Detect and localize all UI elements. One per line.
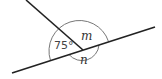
angle-label-75: 75° <box>54 39 74 52</box>
angle-label-m: m <box>81 29 92 43</box>
angle-label-n: n <box>80 53 88 67</box>
angle-diagram: 75° m n <box>0 0 162 79</box>
